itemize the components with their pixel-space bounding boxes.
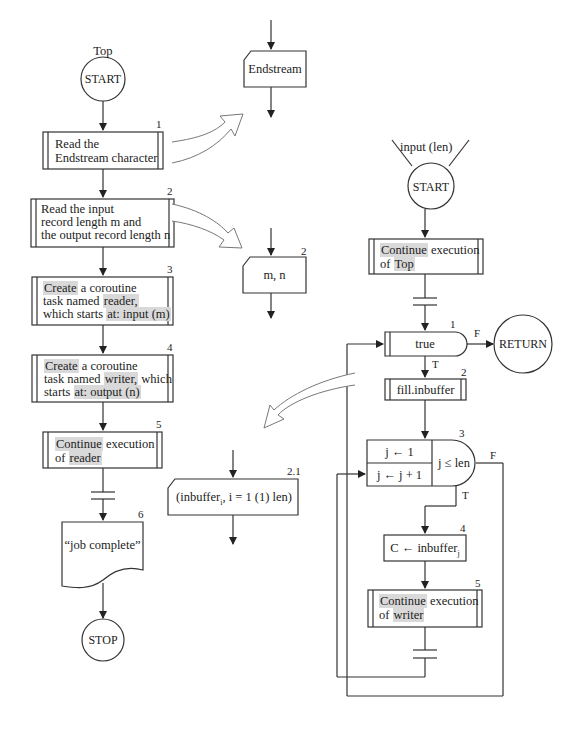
continue-top-line1: Continue execution (380, 243, 480, 257)
step4-line1: Create a coroutine (44, 359, 138, 373)
step-number: 2 (167, 185, 173, 197)
keyword-create: Create (44, 359, 79, 373)
mn-input: m, n (243, 268, 306, 282)
entry-point: at: output (n) (74, 385, 141, 399)
step-number: 6 (138, 508, 144, 520)
step1-line2: Endstream character (55, 151, 157, 165)
step-number: 3 (459, 427, 465, 439)
true-label: T (432, 358, 439, 370)
false-label: F (490, 449, 496, 461)
return-label: RETURN (494, 337, 552, 351)
step5-line1: Continue execution (55, 437, 155, 451)
step-number: 2.1 (287, 465, 301, 477)
loop-init: j ← 1 (367, 445, 432, 459)
entry-label: input (len) (400, 140, 452, 154)
right-start-label: START (408, 180, 454, 194)
job-complete-output: “job complete” (62, 538, 143, 552)
step-number: 2 (461, 366, 467, 378)
step-number: 5 (475, 577, 481, 589)
fill-inbuffer: fill.inbuffer (390, 383, 461, 397)
decision-true: true (390, 337, 460, 351)
step4-line2: task named writer, which (44, 372, 172, 386)
task-name: writer, (104, 372, 138, 386)
true-label: T (462, 489, 469, 501)
step2-line1: Read the input (41, 202, 114, 216)
curved-arrow-endstream (172, 114, 243, 163)
loop-condition: j ≤ len (432, 456, 476, 470)
endstream-input: Endstream (244, 62, 306, 76)
step3-line1: Create a coroutine (43, 281, 137, 295)
false-label: F (474, 327, 480, 339)
keyword-create: Create (43, 281, 78, 295)
step1-line1: Read the (55, 137, 99, 151)
step2-line3: the output record length n (41, 228, 170, 242)
loop-increment: j ← j + 1 (367, 468, 432, 482)
step-number: 5 (156, 418, 162, 430)
step-number: 3 (167, 263, 173, 275)
step-number: 4 (167, 341, 173, 353)
step-number: 2 (301, 245, 307, 257)
step2-line2: record length m and (41, 215, 141, 229)
continue-writer-line2: of writer (379, 608, 424, 622)
step4-line3: starts at: output (n) (44, 385, 141, 399)
continue-writer-line1: Continue execution (379, 594, 479, 608)
step-number: 1 (156, 118, 162, 130)
step-number: 4 (460, 522, 466, 534)
curved-arrow-mn (172, 204, 242, 248)
task-name: reader, (103, 294, 139, 308)
curved-arrow-inbuffer (264, 373, 355, 428)
step3-line3: which starts at: input (m) (43, 307, 171, 321)
start-label: START (81, 72, 125, 86)
continue-top-line2: of Top (380, 257, 415, 271)
step5-line2: of reader (55, 451, 102, 465)
step3-line2: task named reader, (43, 294, 139, 308)
inbuffer-input: (inbufferi, i = 1 (1) len) (176, 490, 292, 510)
stop-label: STOP (82, 633, 124, 647)
assign-c: C ← inbufferj (384, 541, 466, 561)
step-number: 1 (450, 318, 456, 330)
entry-point: at: input (m) (106, 307, 171, 321)
top-label: Top (83, 44, 123, 58)
